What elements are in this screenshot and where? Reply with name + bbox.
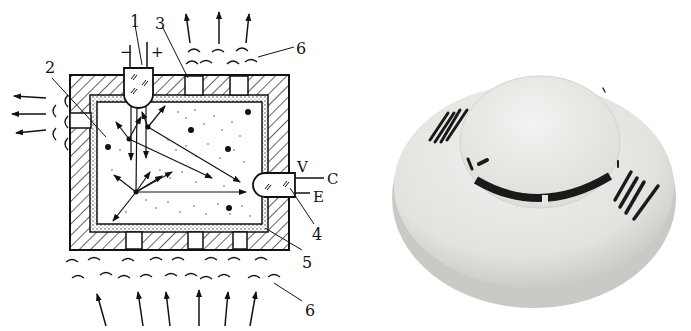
label-1: 1 <box>130 12 140 31</box>
label-6-bottom: 6 <box>305 301 315 320</box>
smoke-chamber-diagram: − + V C E 1 3 2 6 4 5 <box>12 12 338 326</box>
label-3: 3 <box>155 14 165 33</box>
label-4: 4 <box>312 225 322 244</box>
top-vent <box>230 76 248 95</box>
smoke-detector-photo <box>392 76 676 308</box>
label-5: 5 <box>302 253 312 272</box>
label-c: C <box>327 170 338 188</box>
side-vent <box>70 113 91 128</box>
plus-label: + <box>151 43 164 61</box>
label-v: V <box>296 158 309 176</box>
label-e: E <box>313 188 324 206</box>
bottom-vent <box>233 232 247 249</box>
minus-label: − <box>120 43 133 61</box>
figure: − + V C E 1 3 2 6 4 5 <box>0 0 691 331</box>
label-2: 2 <box>45 58 55 77</box>
bottom-vent <box>188 232 203 249</box>
bottom-vent <box>126 232 142 249</box>
label-6-top: 6 <box>296 39 306 58</box>
top-vent <box>185 76 203 95</box>
